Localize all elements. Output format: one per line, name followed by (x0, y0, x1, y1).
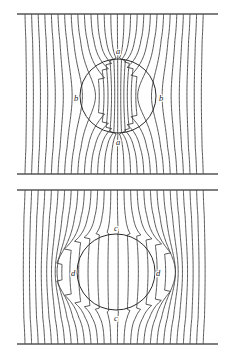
point-label-d-right: d (156, 268, 161, 278)
field-line (177, 190, 183, 344)
field-line (58, 14, 63, 174)
point-label-b-right: b (159, 93, 163, 103)
field-line (25, 14, 26, 174)
field-line (23, 190, 25, 344)
field-line (57, 190, 71, 344)
field-line (187, 14, 190, 174)
field-line (124, 190, 130, 344)
field-line (84, 14, 104, 174)
field-line (51, 14, 55, 174)
field-line (32, 14, 34, 174)
field-line-figure: aaaabbbb ccccdddd (0, 0, 234, 357)
upper-field-panel: aaaabbbb (0, 0, 234, 179)
lower-panel-canvas: ccccdddd (0, 179, 234, 357)
field-line (29, 190, 31, 344)
field-line (197, 190, 199, 344)
field-line (203, 190, 205, 344)
field-line (137, 190, 152, 344)
field-line (162, 14, 170, 174)
field-line (41, 190, 45, 344)
point-label-d-left: d (71, 268, 76, 278)
point-label-a-bottom: a (116, 137, 120, 147)
field-line (201, 14, 203, 174)
point-label-c-top: c (114, 223, 118, 233)
field-line (190, 190, 193, 344)
point-label-a-top: a (116, 46, 120, 56)
field-line (107, 190, 111, 344)
upper-panel-canvas: aaaabbbb (0, 0, 234, 179)
field-line (98, 14, 112, 174)
field-line (45, 14, 48, 174)
field-line (47, 190, 52, 344)
field-line (65, 14, 73, 174)
body-circle (77, 234, 155, 310)
point-label-b-left: b (74, 93, 78, 103)
field-line (119, 14, 124, 174)
lower-field-panel: ccccdddd (0, 179, 234, 357)
field-line (170, 190, 178, 344)
field-line (179, 14, 183, 174)
field-line-group (25, 14, 203, 174)
field-line (38, 14, 40, 174)
field-line (95, 190, 104, 344)
field-line (194, 14, 196, 174)
field-line (84, 190, 98, 344)
field-line (183, 190, 187, 344)
field-line (171, 14, 177, 174)
field-line (36, 190, 39, 344)
point-label-c-bottom: c (114, 313, 118, 323)
